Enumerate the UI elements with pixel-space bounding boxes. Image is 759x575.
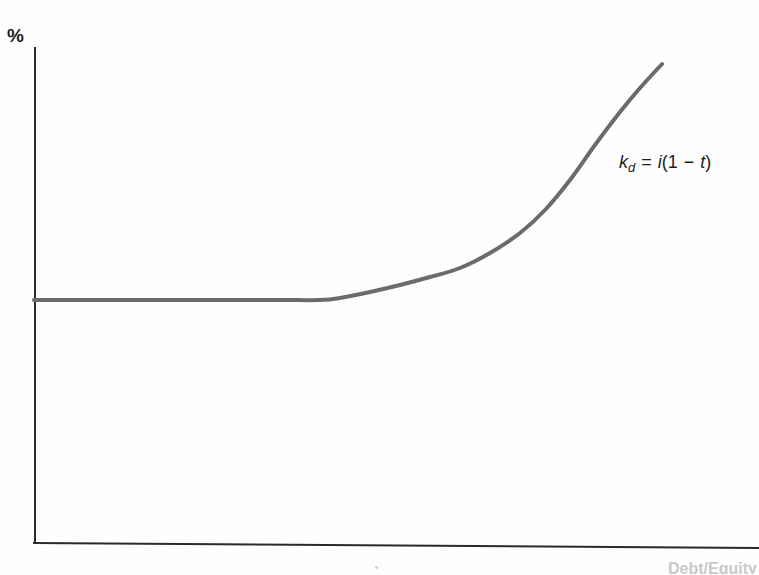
bottom-caption-partial: Debt/Equity [668,560,757,574]
chart-plot-area [0,0,759,575]
equation-subscript-d: d [628,160,635,175]
curve-equation-annotation: kd = i(1 − t) [619,150,711,180]
x-axis-line [34,543,759,548]
equation-close-paren: ) [705,152,711,172]
equation-symbol-k: k [619,152,628,172]
equation-equals-sign: = [640,152,653,172]
equation-minus-sign: − [683,152,696,172]
cost-of-debt-curve [34,64,662,300]
equation-number-one: 1 [668,152,678,172]
y-axis-label: % [7,25,24,47]
scan-speck [375,566,378,569]
figure-canvas: % kd = i(1 − t) Debt/Equity [0,0,759,575]
